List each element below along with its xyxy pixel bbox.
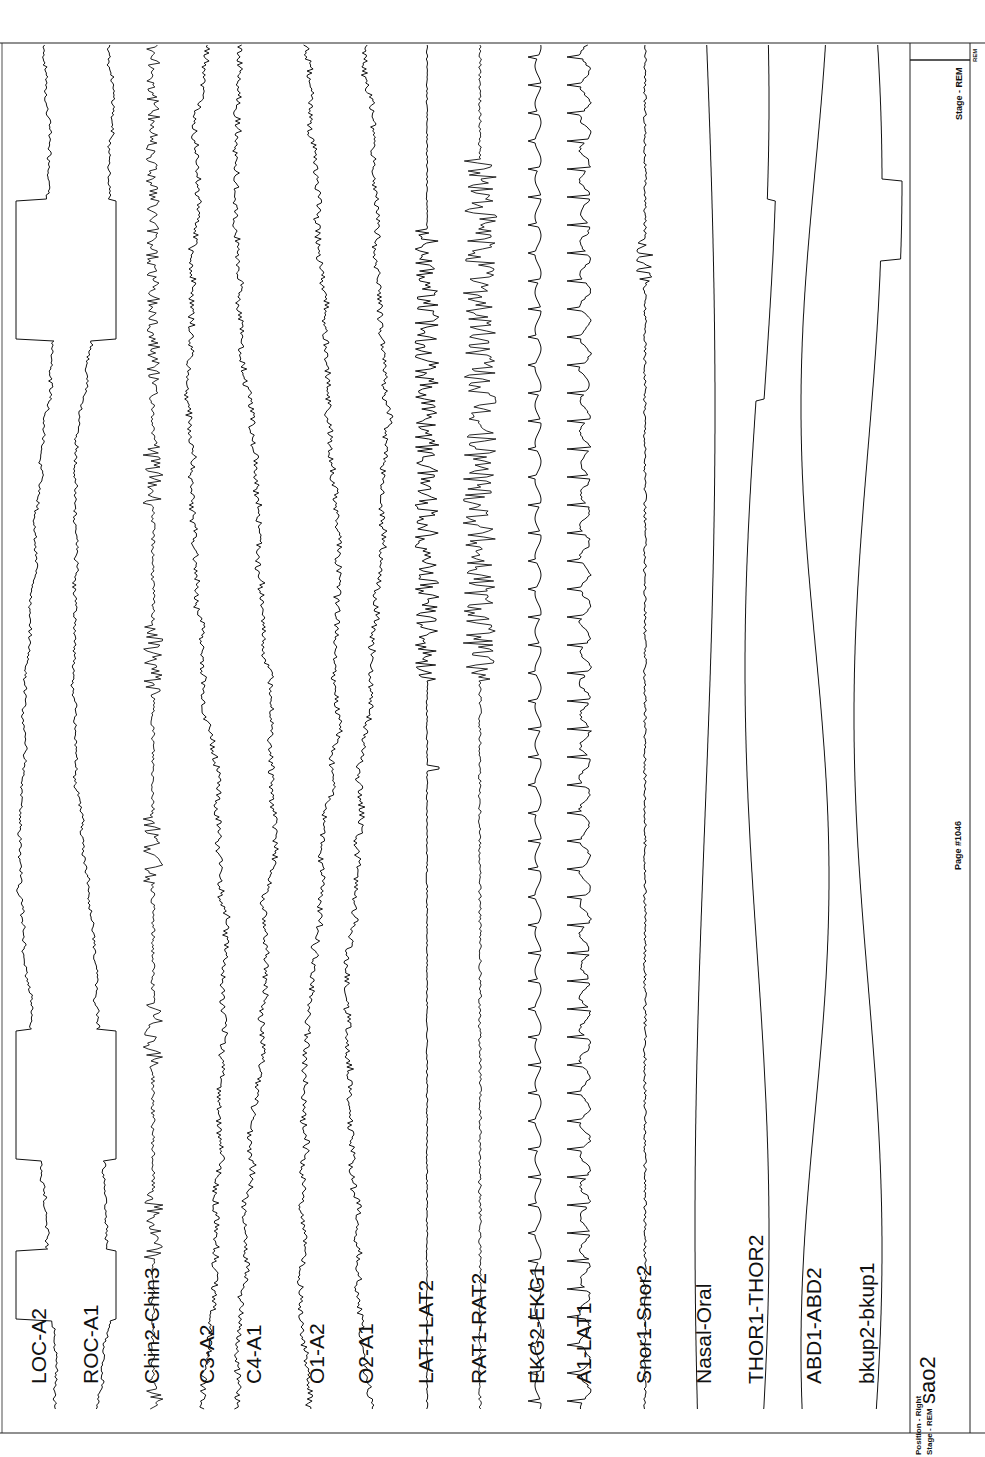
trace-snor1-snor2 [637, 45, 653, 1409]
channel-label: Snor1-Snor2 [633, 1265, 654, 1384]
stage-label-top: Stage - REM [955, 67, 964, 120]
channel-label: O1-A2 [306, 1323, 327, 1384]
channel-label: LAT1-LAT2 [415, 1280, 436, 1384]
trace-canvas [0, 0, 985, 1457]
trace-o2-a1 [344, 45, 393, 1409]
stage-tiny-label: REM [972, 49, 978, 62]
page-frame [0, 43, 985, 1433]
trace-c4-a1 [233, 45, 279, 1409]
trace-a1-lat1 [567, 45, 592, 1409]
page-number: Page #1046 [954, 821, 963, 870]
trace-abd1-abd2 [801, 45, 829, 1409]
trace-thor1-thor2 [745, 45, 775, 1409]
channel-label: THOR1-THOR2 [745, 1235, 766, 1384]
channel-traces [16, 45, 902, 1409]
channel-label: O2-A1 [355, 1323, 376, 1384]
trace-roc-a1 [71, 45, 116, 1409]
stage-label-bottom: Stage - REM [926, 1408, 934, 1455]
sao2-label: sao2 [917, 1356, 939, 1404]
channel-label: bkup2-bkup1 [856, 1263, 877, 1384]
trace-bkup2-bkup1 [854, 45, 902, 1409]
trace-c3-a2 [184, 45, 230, 1409]
channel-label: C4-A1 [243, 1324, 264, 1384]
position-label: Position - Right [915, 1396, 923, 1455]
trace-rat1-rat2 [463, 45, 497, 1409]
psg-page: LOC-A2ROC-A1Chin2-Chin3C3-A2C4-A1O1-A2O2… [0, 0, 985, 1457]
channel-label: LOC-A2 [28, 1308, 49, 1384]
trace-nasal-oral [695, 45, 715, 1409]
channel-label: ABD1-ABD2 [803, 1267, 824, 1384]
trace-lat1-lat2 [415, 45, 439, 1409]
channel-label: C3-A2 [196, 1324, 217, 1384]
trace-chin2-chin3 [143, 45, 163, 1409]
channel-label: EKG2-EKG1 [526, 1265, 547, 1384]
channel-label: RAT1-RAT2 [468, 1273, 489, 1384]
trace-loc-a2 [16, 45, 58, 1409]
trace-o1-a2 [298, 45, 343, 1409]
channel-label: Nasal-Oral [693, 1284, 714, 1384]
channel-label: ROC-A1 [80, 1305, 101, 1384]
trace-ekg2-ekg1 [528, 45, 541, 1409]
channel-label: A1-LAT1 [573, 1303, 594, 1384]
channel-label: Chin2-Chin3 [141, 1267, 162, 1384]
